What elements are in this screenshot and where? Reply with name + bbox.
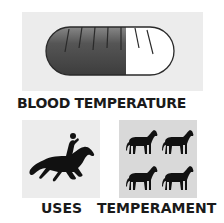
blood-temperature-panel: [22, 12, 203, 91]
uses-panel: [22, 120, 100, 198]
uses-label: USES: [41, 200, 82, 216]
temperament-panel: [119, 120, 197, 198]
blood-temperature-label: BLOOD TEMPERATURE: [17, 95, 186, 111]
four-horses-icon: [119, 120, 197, 198]
thermometer-pill-icon: [45, 26, 175, 76]
temperament-label: TEMPERAMENT: [97, 200, 216, 216]
galloping-horse-rider-icon: [22, 120, 100, 198]
